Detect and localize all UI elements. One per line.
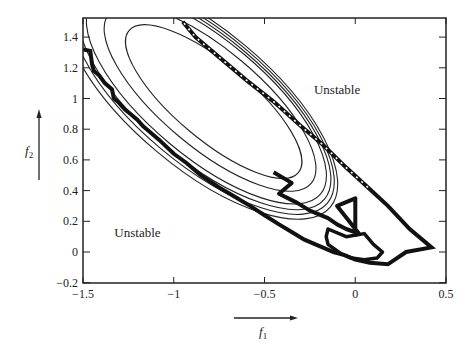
x-axis-name-sub: 1 xyxy=(263,331,268,341)
y-tick-label: 0.2 xyxy=(63,214,78,228)
y-tick-label: 1.2 xyxy=(63,61,78,75)
y-tick-label: 1 xyxy=(72,92,78,106)
y-tick-label: 0.8 xyxy=(63,122,78,136)
region-label-unstable: Unstable xyxy=(314,82,360,97)
x-tick-label: −1 xyxy=(167,287,180,301)
stability-chart: −1.5−1−0.500.5 −0.200.20.40.60.811.21.4 … xyxy=(0,0,475,348)
x-tick-label: 0 xyxy=(352,287,358,301)
x-tick-label: 0.5 xyxy=(439,287,454,301)
y-tick-label: 0.4 xyxy=(63,184,78,198)
y-axis-name-sub: 2 xyxy=(29,150,34,160)
y-tick-label: −0.2 xyxy=(56,276,78,290)
y-tick-label: 1.4 xyxy=(63,30,78,44)
y-tick-label: 0 xyxy=(72,245,78,259)
region-label-unstable: Unstable xyxy=(114,225,160,240)
x-tick-label: −0.5 xyxy=(254,287,276,301)
y-tick-label: 0.6 xyxy=(63,153,78,167)
